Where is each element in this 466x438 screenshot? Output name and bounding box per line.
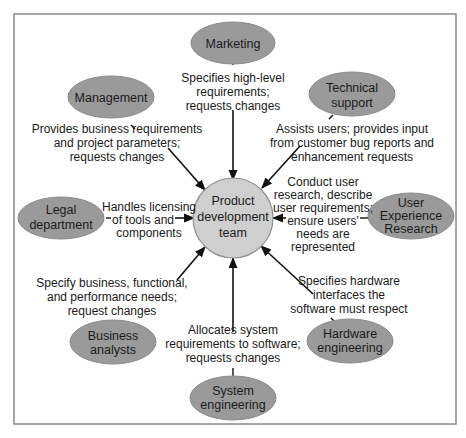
node-user-experience-research[interactable]: User Experience Research [368,193,454,239]
node-label: System [212,384,254,398]
hub-label-line: Product [211,194,255,208]
edge-text: Specifies high-level [181,71,284,85]
node-label: Legal [46,203,77,217]
node-hardware-engineering[interactable]: Hardware engineering [307,319,393,363]
edge-text: software must respect [290,302,408,316]
edge-text: needs are [296,227,350,241]
node-label: Management [75,91,148,105]
node-label: Hardware [323,327,377,341]
edge-label-marketing: Specifies high-level requirements; reque… [181,71,284,113]
node-label: Business [88,329,139,343]
edge-text: and performance needs; [47,290,177,304]
edge-text: user requirements; [273,201,373,215]
edge-text: requests changes [70,150,165,164]
edge-text: requirements to software; [165,337,300,351]
node-label: Marketing [206,37,261,51]
edge-text: Conduct user [287,175,358,189]
edge-text: enhancement requests [291,150,413,164]
node-label: Experience [380,209,443,223]
node-label: engineering [317,341,382,355]
stakeholder-diagram: Product development team Marketing Speci… [0,0,466,438]
edge-text: components [116,226,181,240]
node-legal-department[interactable]: Legal department [18,197,104,239]
node-management[interactable]: Management [68,76,154,118]
edge-text: ensure users' [287,214,359,228]
hub-product-development-team[interactable]: Product development team [193,178,273,258]
node-label: User [398,196,424,210]
node-label: support [331,96,373,110]
node-label: department [29,218,93,232]
edge-text: and project parameters; [54,136,181,150]
hub-label-line: development [197,210,269,224]
edge-text: requests changes [186,99,281,113]
edge-text: of tools and [112,213,174,227]
edge-text: Provides business requirements [32,122,203,136]
edge-text: interfaces the [313,288,385,302]
edge-text: Handles licensing [102,200,196,214]
edge-text: represented [291,240,355,254]
edge-text: requests changes [186,351,281,365]
edge-text: Assists users; provides input [276,122,429,136]
node-marketing[interactable]: Marketing [191,22,275,64]
node-label: analysts [90,343,136,357]
edge-text: from customer bug reports and [270,136,434,150]
edge-label-technical-support: Assists users; provides input from custo… [270,122,434,164]
node-technical-support[interactable]: Technical support [309,72,395,116]
node-system-engineering[interactable]: System engineering [190,376,276,420]
edge-text: Specifies hardware [298,274,400,288]
edge-text: Allocates system [188,323,278,337]
node-label: Research [384,222,438,236]
edge-text: Specify business, functional, [36,276,187,290]
node-label: engineering [200,398,265,412]
edge-text: requirements; [196,85,269,99]
edge-text: request changes [68,304,157,318]
hub-label-line: team [219,226,247,240]
edge-text: research, describe [274,188,373,202]
node-business-analysts[interactable]: Business analysts [70,320,156,364]
node-label: Technical [326,81,378,95]
